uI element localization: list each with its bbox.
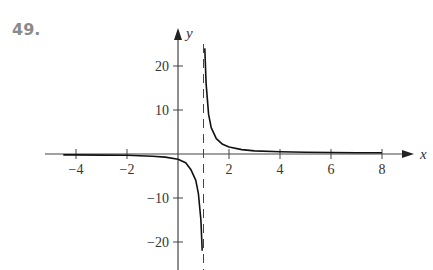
y-tick-label: 20 <box>155 59 169 74</box>
x-tick-label: −2 <box>120 162 135 177</box>
y-tick-label: 10 <box>155 103 169 118</box>
graph: xy−4−224682010−10−20 <box>0 0 433 270</box>
curve-right-branch <box>205 48 382 152</box>
x-tick-label: 2 <box>226 162 233 177</box>
y-axis-arrow-icon <box>174 28 182 40</box>
y-tick-label: −10 <box>147 191 169 206</box>
x-tick-label: 6 <box>328 162 335 177</box>
x-tick-label: 8 <box>379 162 386 177</box>
x-axis-label: x <box>419 146 427 162</box>
y-axis-label: y <box>184 25 193 41</box>
x-axis-arrow-icon <box>402 150 414 158</box>
x-tick-label: 4 <box>277 162 284 177</box>
y-tick-label: −20 <box>147 235 169 250</box>
x-tick-label: −4 <box>69 162 84 177</box>
